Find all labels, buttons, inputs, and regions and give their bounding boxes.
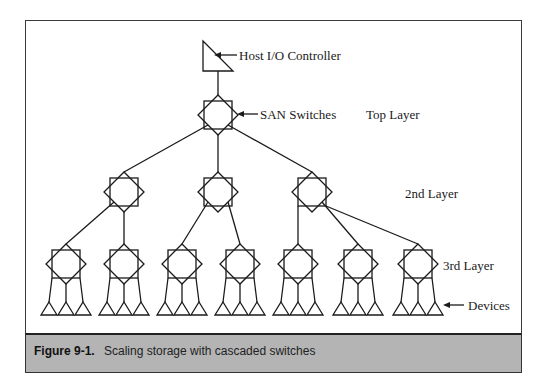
arrow-head-icon: [237, 111, 244, 117]
storage-device-icon: [307, 302, 323, 315]
link-line: [138, 278, 141, 302]
third-layer-switch: [220, 244, 260, 284]
link-line: [254, 278, 257, 302]
storage-device-icon: [215, 302, 231, 315]
figure-number: Figure 9-1.: [34, 344, 95, 358]
storage-device-icon: [174, 302, 190, 315]
link-line: [107, 278, 110, 302]
storage-device-icon: [116, 302, 132, 315]
figure-caption: Scaling storage with cascaded switches: [104, 344, 315, 358]
storage-device-icon: [133, 302, 149, 315]
switches-label-group: SAN Switches: [237, 107, 336, 122]
third-layer-switch: [104, 244, 144, 284]
link-line: [312, 278, 315, 302]
storage-device-icon: [157, 302, 173, 315]
storage-device-icon: [249, 302, 265, 315]
storage-device-icon: [393, 302, 409, 315]
storage-device-icon: [99, 302, 115, 315]
second-layer-switch: [292, 172, 332, 212]
storage-device-icon: [232, 302, 248, 315]
link-line: [372, 278, 375, 302]
link-line: [281, 278, 284, 302]
link-line: [401, 278, 404, 302]
storage-device-icon: [75, 302, 91, 315]
link-line: [124, 125, 208, 172]
link-line: [165, 278, 168, 302]
third-layer-switch: [338, 244, 378, 284]
storage-device-icon: [191, 302, 207, 315]
figure-caption-bar: Figure 9-1. Scaling storage with cascade…: [25, 333, 522, 373]
third-layer-switch: [46, 244, 86, 284]
link-line: [341, 278, 344, 302]
third-layer-label: 3rd Layer: [443, 258, 495, 273]
link-line: [80, 278, 83, 302]
network-nodes: [41, 41, 443, 315]
storage-device-icon: [290, 302, 306, 315]
third-layer-switch: [162, 244, 202, 284]
cascaded-switch-diagram: Host I/O Controller SAN Switches Top Lay…: [0, 0, 550, 390]
storage-device-icon: [333, 302, 349, 315]
link-line: [228, 202, 240, 244]
second-layer-switch: [198, 172, 238, 212]
storage-device-icon: [367, 302, 383, 315]
second-layer-switch: [104, 172, 144, 212]
host-label-group: Host I/O Controller: [214, 48, 341, 63]
storage-device-icon: [410, 302, 426, 315]
storage-device-icon: [427, 302, 443, 315]
devices-label-group: Devices: [443, 298, 510, 313]
top-layer-label: Top Layer: [366, 107, 420, 122]
third-layer-switch: [278, 244, 318, 284]
link-line: [196, 278, 199, 302]
second-layer-label: 2nd Layer: [405, 186, 459, 201]
link-line: [182, 202, 208, 244]
storage-device-icon: [273, 302, 289, 315]
link-line: [49, 278, 52, 302]
arrow-head-icon: [443, 302, 450, 308]
link-line: [228, 125, 312, 172]
storage-device-icon: [58, 302, 74, 315]
link-line: [322, 202, 358, 244]
link-line: [432, 278, 435, 302]
third-layer-switch: [398, 244, 438, 284]
san-switches-label: SAN Switches: [260, 107, 336, 122]
top-layer-switch: [198, 95, 238, 135]
link-line: [223, 278, 226, 302]
storage-device-icon: [41, 302, 57, 315]
storage-device-icon: [350, 302, 366, 315]
link-line: [66, 202, 114, 244]
devices-label: Devices: [468, 298, 510, 313]
link-line: [326, 206, 418, 244]
host-controller-label: Host I/O Controller: [239, 48, 341, 63]
